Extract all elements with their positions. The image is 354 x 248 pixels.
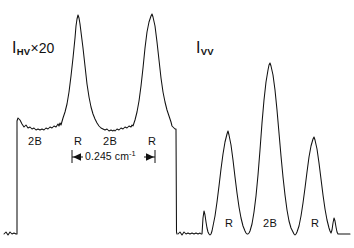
peak-label-right-2b: 2B <box>263 218 277 229</box>
ihv-subscript: HV <box>17 46 31 57</box>
ivv-subscript: VV <box>201 46 214 57</box>
scalebar-label: 0.245 cm-1 <box>85 150 136 162</box>
peak-label-left-r-2: R <box>148 136 156 147</box>
peak-label-left-2b-1: 2B <box>28 136 42 147</box>
scalebar-left-arrow-icon <box>73 153 81 161</box>
trace-label-ivv: IVV <box>196 40 214 56</box>
scalebar-right-arrow-icon <box>146 153 154 161</box>
scalebar-exponent: -1 <box>129 149 136 158</box>
trace-label-ihv: IHV×20 <box>12 40 54 56</box>
scalebar-unit: cm <box>115 150 129 162</box>
ihv-multiplier: ×20 <box>30 40 54 56</box>
spectrum-figure: IHV×20 IVV 2B R 2B R 0.245 cm-1 R 2B R <box>0 0 354 248</box>
peak-label-left-r-1: R <box>74 136 82 147</box>
peak-label-right-r-1: R <box>225 218 233 229</box>
spectrum-plot <box>0 0 354 248</box>
trace-ivv <box>178 63 350 235</box>
peak-label-left-2b-2: 2B <box>103 136 117 147</box>
scalebar-value: 0.245 <box>85 150 112 162</box>
peak-label-right-r-2: R <box>311 218 319 229</box>
